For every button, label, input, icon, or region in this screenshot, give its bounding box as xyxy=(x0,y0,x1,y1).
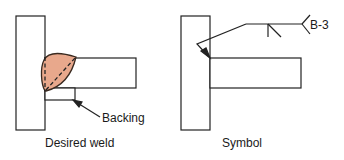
backing-callout-label: Backing xyxy=(102,111,145,125)
horizontal-member xyxy=(210,58,301,88)
backing-arrowhead xyxy=(73,100,82,107)
symbol-figure xyxy=(181,15,310,130)
vertical-member xyxy=(181,16,210,130)
bevel-symbol-diagonal xyxy=(268,24,281,37)
symbol-caption: Symbol xyxy=(222,136,262,150)
desired-weld-caption: Desired weld xyxy=(45,136,114,150)
tail-lower xyxy=(302,24,310,34)
tail-upper xyxy=(302,15,310,24)
vertical-member xyxy=(16,16,45,130)
tail-reference-label: B-3 xyxy=(310,18,329,32)
